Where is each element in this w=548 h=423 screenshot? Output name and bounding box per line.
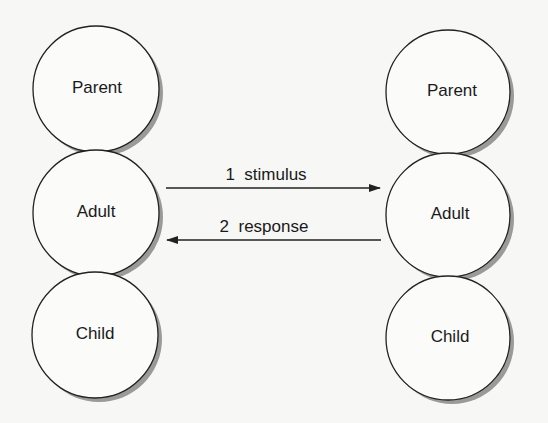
right-parent-state: Parent <box>386 30 514 158</box>
left-parent-label: Parent <box>72 78 122 97</box>
right-child-label: Child <box>431 327 470 346</box>
left-ego-states: Parent Adult Child <box>32 26 163 402</box>
left-parent-state: Parent <box>33 26 163 156</box>
right-ego-states: Parent Adult Child <box>386 30 514 404</box>
right-child-state: Child <box>386 276 514 404</box>
response-label: 2 response <box>220 217 309 236</box>
left-child-state: Child <box>32 272 162 402</box>
left-adult-state: Adult <box>33 150 163 280</box>
right-adult-state: Adult <box>386 153 514 281</box>
stimulus-label: 1 stimulus <box>225 165 306 184</box>
transactional-analysis-diagram: Parent Adult Child Parent Adult Child <box>0 0 548 423</box>
right-adult-label: Adult <box>431 204 470 223</box>
left-adult-label: Adult <box>77 202 116 221</box>
right-parent-label: Parent <box>427 81 477 100</box>
stimulus-transaction: 1 stimulus <box>166 165 380 188</box>
left-child-label: Child <box>76 324 115 343</box>
response-transaction: 2 response <box>167 217 381 240</box>
